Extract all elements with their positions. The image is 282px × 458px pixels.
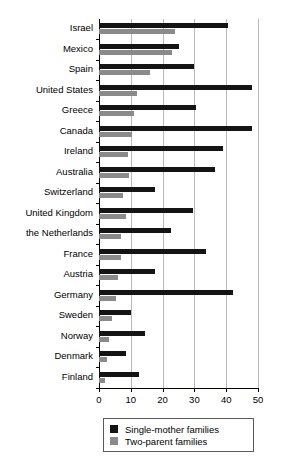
bar-two-parent <box>99 152 128 157</box>
x-axis-tick-label: 20 <box>157 394 168 405</box>
chart-row: Finland <box>99 368 258 389</box>
chart-row: Spain <box>99 60 258 81</box>
legend-item: Single-mother families <box>110 423 247 435</box>
x-axis-tick <box>258 388 259 392</box>
bar-single-mother <box>99 269 155 274</box>
bar-single-mother <box>99 64 194 69</box>
bar-two-parent <box>99 111 134 116</box>
chart-row: Israel <box>99 19 258 40</box>
category-label: United Kingdom <box>25 207 93 218</box>
x-axis-tick-label: 10 <box>126 394 137 405</box>
bar-two-parent <box>99 337 109 342</box>
category-label: Finland <box>62 371 93 382</box>
bar-single-mother <box>99 126 252 131</box>
chart-row: Switzerland <box>99 183 258 204</box>
x-axis-tick <box>194 388 195 392</box>
category-label: Greece <box>62 104 93 115</box>
legend-item: Two-parent families <box>110 435 247 447</box>
chart-row: the Netherlands <box>99 224 258 245</box>
bar-single-mother <box>99 228 171 233</box>
legend-swatch-icon <box>110 437 118 445</box>
bar-two-parent <box>99 378 105 383</box>
x-axis-tick-label: 0 <box>96 394 101 405</box>
chart-row: Australia <box>99 163 258 184</box>
legend-label: Single-mother families <box>125 424 219 435</box>
bar-single-mother <box>99 85 252 90</box>
category-label: Sweden <box>59 309 93 320</box>
bar-single-mother <box>99 44 179 49</box>
chart-row: France <box>99 245 258 266</box>
bar-two-parent <box>99 316 112 321</box>
bar-single-mother <box>99 351 126 356</box>
x-axis-tick <box>99 388 100 392</box>
bar-two-parent <box>99 234 121 239</box>
chart-row: Norway <box>99 327 258 348</box>
category-label: Norway <box>61 330 93 341</box>
bar-two-parent <box>99 193 123 198</box>
bar-two-parent <box>99 132 132 137</box>
chart-row: Germany <box>99 286 258 307</box>
bar-single-mother <box>99 187 155 192</box>
x-axis-tick <box>131 388 132 392</box>
bar-single-mother <box>99 249 206 254</box>
chart-row: United States <box>99 81 258 102</box>
bar-two-parent <box>99 275 118 280</box>
bar-two-parent <box>99 357 107 362</box>
category-label: United States <box>36 84 93 95</box>
bar-single-mother <box>99 146 223 151</box>
bar-two-parent <box>99 91 137 96</box>
chart-row: United Kingdom <box>99 204 258 225</box>
chart-row: Greece <box>99 101 258 122</box>
x-axis-tick-label: 40 <box>221 394 232 405</box>
category-label: the Netherlands <box>26 227 93 238</box>
chart-row: Ireland <box>99 142 258 163</box>
x-axis-tick-label: 30 <box>189 394 200 405</box>
bar-single-mother <box>99 331 145 336</box>
chart-row: Denmark <box>99 347 258 368</box>
bar-single-mother <box>99 208 193 213</box>
category-label: Switzerland <box>44 186 93 197</box>
chart-row: Austria <box>99 265 258 286</box>
x-axis-tick <box>226 388 227 392</box>
legend-swatch-icon <box>110 425 118 433</box>
bar-two-parent <box>99 50 172 55</box>
chart-row: Canada <box>99 122 258 143</box>
poverty-rate-bar-chart: Poverty rates IsraelMexicoSpainUnited St… <box>0 0 282 458</box>
plot-area: IsraelMexicoSpainUnited StatesGreeceCana… <box>99 19 258 388</box>
bar-two-parent <box>99 255 121 260</box>
category-label: Israel <box>70 22 93 33</box>
chart-legend: Single-mother familiesTwo-parent familie… <box>103 418 254 452</box>
bar-single-mother <box>99 167 215 172</box>
category-label: France <box>63 248 93 259</box>
category-label: Ireland <box>64 145 93 156</box>
category-label: Denmark <box>54 350 93 361</box>
category-label: Canada <box>60 125 93 136</box>
bar-two-parent <box>99 173 129 178</box>
legend-label: Two-parent families <box>125 436 207 447</box>
category-label: Australia <box>56 166 93 177</box>
bar-single-mother <box>99 372 139 377</box>
bar-single-mother <box>99 105 196 110</box>
bar-single-mother <box>99 310 131 315</box>
bar-two-parent <box>99 70 150 75</box>
x-axis: 01020304050 <box>99 388 258 389</box>
category-label: Austria <box>63 268 93 279</box>
bar-two-parent <box>99 29 175 34</box>
chart-row: Sweden <box>99 306 258 327</box>
category-label: Germany <box>54 289 93 300</box>
bar-two-parent <box>99 296 116 301</box>
x-axis-tick-label: 50 <box>253 394 264 405</box>
bar-single-mother <box>99 23 228 28</box>
gridline-50 <box>258 19 259 388</box>
bar-two-parent <box>99 214 126 219</box>
bar-single-mother <box>99 290 233 295</box>
category-label: Spain <box>69 63 93 74</box>
chart-row: Mexico <box>99 40 258 61</box>
category-label: Mexico <box>63 43 93 54</box>
x-axis-tick <box>163 388 164 392</box>
